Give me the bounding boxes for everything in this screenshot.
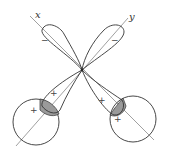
left-s-sign: +: [30, 105, 38, 115]
x-axis-label: x: [35, 9, 41, 20]
nucleus-dot: [81, 69, 84, 72]
x-negative-lobe: [42, 25, 82, 70]
right-s-sign: +: [114, 114, 122, 124]
y-axis-label: y: [128, 11, 135, 22]
y-positive-sign: +: [50, 88, 58, 98]
y-negative-sign: −: [111, 35, 119, 45]
orbital-diagram: x y − − + + + +: [0, 0, 169, 158]
x-negative-sign: −: [41, 35, 49, 45]
x-axis: [30, 16, 154, 140]
x-positive-sign: +: [98, 95, 106, 105]
